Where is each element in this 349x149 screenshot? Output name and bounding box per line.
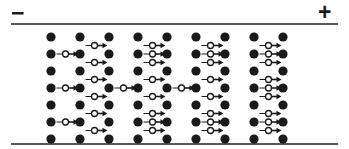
metal-ion-layer xyxy=(46,32,287,143)
metal-ion xyxy=(191,100,200,109)
metal-ion xyxy=(133,100,142,109)
metal-ion xyxy=(162,83,171,92)
metal-ion xyxy=(191,66,200,75)
metal-ion xyxy=(249,49,258,58)
electron-with-drift-arrow xyxy=(144,94,166,100)
electron-circle xyxy=(150,111,156,117)
electron-circle xyxy=(150,77,156,83)
metal-ion xyxy=(133,66,142,75)
metal-ion xyxy=(278,66,287,75)
electron-circle xyxy=(266,94,272,100)
drift-arrow-head xyxy=(161,94,166,100)
metal-ion xyxy=(104,100,113,109)
electron-circle xyxy=(92,128,98,134)
electron-with-drift-arrow xyxy=(86,43,108,49)
metal-ion xyxy=(75,100,84,109)
drift-arrow-head xyxy=(103,128,108,134)
metal-ion xyxy=(220,66,229,75)
drift-arrow-head xyxy=(277,77,282,83)
metal-ion xyxy=(104,83,113,92)
drift-arrow-head xyxy=(161,60,166,66)
electron-with-drift-arrow xyxy=(260,119,282,125)
metal-ion xyxy=(220,32,229,41)
lattice-diagram xyxy=(0,0,349,149)
metal-ion xyxy=(220,134,229,143)
electron-circle xyxy=(121,85,127,91)
metal-ion xyxy=(191,32,200,41)
metal-ion xyxy=(191,134,200,143)
metal-ion xyxy=(162,100,171,109)
electron-with-drift-arrow xyxy=(144,128,166,134)
metal-ion xyxy=(249,134,258,143)
electron-with-drift-arrow xyxy=(86,111,108,117)
electron-with-drift-arrow xyxy=(260,77,282,83)
metal-ion xyxy=(249,100,258,109)
metal-ion xyxy=(220,100,229,109)
metal-ion xyxy=(46,32,55,41)
drift-arrow-head xyxy=(161,77,166,83)
electron-circle xyxy=(150,43,156,49)
metal-ion xyxy=(46,66,55,75)
electron-with-drift-arrow xyxy=(57,51,79,57)
electron-circle xyxy=(150,119,156,125)
electron-with-drift-arrow xyxy=(86,60,108,66)
metal-ion xyxy=(249,83,258,92)
electron-circle xyxy=(266,119,272,125)
metal-ion xyxy=(191,117,200,126)
drift-arrow-head xyxy=(219,111,224,117)
electron-circle xyxy=(92,77,98,83)
metal-ion xyxy=(104,66,113,75)
metal-ion xyxy=(104,49,113,58)
electron-circle xyxy=(266,128,272,134)
metal-ion xyxy=(220,83,229,92)
electron-with-drift-arrow xyxy=(202,111,224,117)
electron-circle xyxy=(208,111,214,117)
metal-ion xyxy=(278,32,287,41)
electron-circle xyxy=(150,51,156,57)
electron-with-drift-arrow xyxy=(202,77,224,83)
electron-with-drift-arrow xyxy=(260,111,282,117)
electron-circle xyxy=(92,111,98,117)
electron-with-drift-arrow xyxy=(260,85,282,91)
drift-arrow-head xyxy=(219,60,224,66)
electron-circle xyxy=(208,94,214,100)
electron-drift-figure: − + xyxy=(0,0,349,149)
drift-arrow-head xyxy=(161,43,166,49)
electron-with-drift-arrow xyxy=(260,43,282,49)
electron-with-drift-arrow xyxy=(260,128,282,134)
electron-circle xyxy=(63,85,69,91)
drift-arrow-head xyxy=(219,94,224,100)
drift-arrow-head xyxy=(277,111,282,117)
electron-circle xyxy=(150,128,156,134)
drift-arrow-head xyxy=(103,60,108,66)
metal-ion xyxy=(191,49,200,58)
drift-arrow-head xyxy=(103,94,108,100)
electron-circle xyxy=(266,43,272,49)
drift-arrow-head xyxy=(103,77,108,83)
electron-circle xyxy=(63,119,69,125)
electron-with-drift-arrow xyxy=(202,94,224,100)
electron-circle xyxy=(208,43,214,49)
drift-arrow-head xyxy=(277,128,282,134)
electron-circle xyxy=(150,60,156,66)
metal-ion xyxy=(249,117,258,126)
metal-ion xyxy=(46,134,55,143)
drift-arrow-head xyxy=(103,43,108,49)
metal-ion xyxy=(133,134,142,143)
electron-with-drift-arrow xyxy=(144,43,166,49)
electron-with-drift-arrow xyxy=(260,94,282,100)
electron-with-drift-arrow xyxy=(86,128,108,134)
metal-ion xyxy=(75,66,84,75)
drift-arrow-head xyxy=(277,60,282,66)
electron-circle xyxy=(208,128,214,134)
electron-circle xyxy=(208,77,214,83)
drift-arrow-head xyxy=(219,128,224,134)
electron-circle xyxy=(266,60,272,66)
electron-with-drift-arrow xyxy=(144,119,166,125)
metal-ion xyxy=(133,32,142,41)
electron-circle xyxy=(92,43,98,49)
metal-ion xyxy=(133,117,142,126)
electron-with-drift-arrow xyxy=(260,51,282,57)
electron-with-drift-arrow xyxy=(173,85,195,91)
electron-circle xyxy=(208,60,214,66)
